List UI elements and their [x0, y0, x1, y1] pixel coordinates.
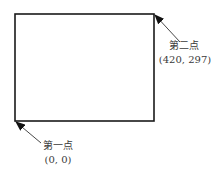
second-point-name: 第二点: [164, 40, 204, 52]
second-point-coords: (420, 297): [158, 54, 212, 66]
rectangle-shape: [15, 14, 154, 121]
first-point-arrow: [16, 122, 41, 143]
first-point-name: 第一点: [40, 140, 76, 152]
diagram-canvas: [0, 0, 217, 175]
first-point-coords: (0, 0): [40, 154, 76, 166]
second-point-arrow: [155, 15, 180, 42]
